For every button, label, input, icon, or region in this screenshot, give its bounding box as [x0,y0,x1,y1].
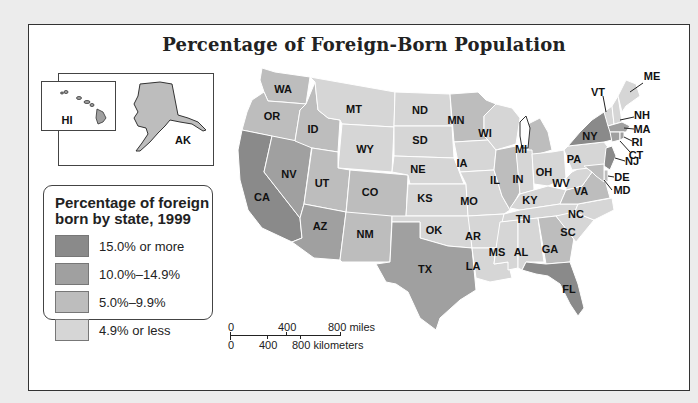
states-layer [238,68,640,330]
scale-miles-mid: 400 [278,321,296,333]
state-label-ne: NE [410,163,425,175]
state-label-il: IL [490,174,500,186]
legend-item-tier4: 4.9% or less [55,316,212,344]
state-label-sc: SC [560,226,575,238]
state-label-az: AZ [313,220,328,232]
scale-line [230,335,340,336]
legend-label: 15.0% or more [99,239,184,254]
state-label-pa: PA [567,153,582,165]
state-label-co: CO [362,186,379,198]
state-label-mn: MN [447,114,464,126]
legend-swatch-tier3 [55,291,89,313]
state-label-de: DE [614,171,629,183]
state-label-mo: MO [460,195,478,207]
scale-km-zero: 0 [228,339,234,351]
legend-label: 4.9% or less [99,323,171,338]
state-label-ga: GA [542,243,559,255]
scale-km-mid: 400 [259,339,277,351]
state-label-al: AL [514,246,529,258]
state-me[interactable] [618,80,640,112]
state-label-ok: OK [426,224,443,236]
state-label-id: ID [308,123,319,135]
state-label-wa: WA [274,83,292,95]
state-label-nh: NH [634,109,650,121]
state-label-vt: VT [591,86,605,98]
scale-tick [286,332,287,336]
state-label-me: ME [644,70,661,82]
scale-miles-end: 800 miles [328,321,375,333]
scale-miles-zero: 0 [228,321,234,333]
legend-title: Percentage of foreign born by state, 199… [55,195,212,227]
state-label-in: IN [513,173,524,185]
state-label-ar: AR [465,230,481,242]
state-label-wv: WV [552,177,570,189]
state-label-sd: SD [412,134,427,146]
alaska-shape [134,82,206,151]
state-label-md: MD [613,184,630,196]
legend-label: 10.0%–14.9% [99,267,180,282]
state-label-or: OR [264,110,281,122]
legend-swatch-tier1 [55,235,89,257]
legend-item-tier1: 15.0% or more [55,232,212,260]
state-label-ia: IA [457,157,468,169]
state-label-ri: RI [632,136,643,148]
state-label-ut: UT [315,177,330,189]
state-ri[interactable] [620,132,624,140]
state-ks[interactable] [406,184,468,216]
state-label-mt: MT [346,103,362,115]
legend-label: 5.0%–9.9% [99,295,166,310]
state-label-ak: AK [175,134,191,146]
state-label-ms: MS [489,246,506,258]
state-ct[interactable] [610,132,620,142]
state-label-fl: FL [562,283,576,295]
scale-km-end: 800 kilometers [292,339,364,351]
state-label-oh: OH [536,166,553,178]
state-label-ky: KY [522,194,538,206]
state-label-tn: TN [516,213,531,225]
state-label-wi: WI [478,127,491,139]
state-label-nd: ND [412,104,428,116]
state-label-ny: NY [582,130,598,142]
state-label-mi: MI [515,143,527,155]
legend-title-line2: born by state, 1999 [55,211,212,227]
legend-swatch-tier2 [55,263,89,285]
legend-item-tier2: 10.0%–14.9% [55,260,212,288]
state-label-nj: NJ [625,155,639,167]
state-label-nv: NV [281,168,297,180]
state-label-tx: TX [418,263,433,275]
state-label-hi: HI [62,114,73,126]
state-label-nc: NC [568,208,584,220]
legend-item-tier3: 5.0%–9.9% [55,288,212,316]
state-label-ma: MA [633,123,650,135]
state-label-ca: CA [254,191,270,203]
scale-tick [340,332,341,336]
state-label-nm: NM [356,228,373,240]
state-label-va: VA [574,185,589,197]
legend: Percentage of foreign born by state, 199… [43,185,213,320]
state-nj[interactable] [604,146,616,170]
state-label-ks: KS [417,192,432,204]
legend-title-line1: Percentage of foreign [55,195,212,211]
legend-swatch-tier4 [55,319,89,341]
state-label-wy: WY [356,143,374,155]
state-label-la: LA [466,260,481,272]
scale-bar: 0 400 800 miles 0 400 800 kilometers [225,321,375,361]
